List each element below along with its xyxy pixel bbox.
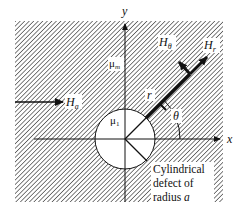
theta-label: θ [173, 109, 179, 123]
cylindrical-defect-diagram: y x Ha Hθ Hr μm μ1 r θ Cylindrical defec… [0, 0, 246, 216]
r-label: r [147, 88, 152, 102]
x-axis-label: x [226, 132, 233, 146]
annotation-line-1: Cylindrical [153, 163, 205, 176]
y-axis-label: y [121, 4, 128, 18]
annotation-line-2: defect of [153, 177, 194, 189]
annotation-line-3: radius a [153, 191, 190, 203]
